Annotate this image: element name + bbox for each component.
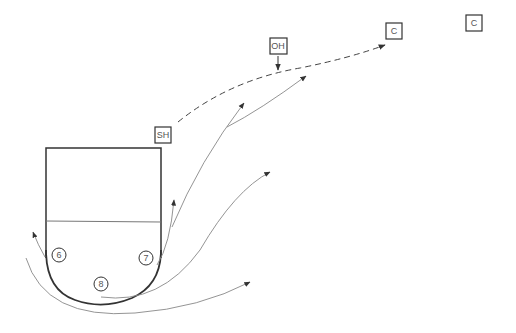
pass-path <box>178 45 385 122</box>
marker-c1: C <box>386 23 402 39</box>
path-7-cut <box>157 200 174 265</box>
marker-c2: C <box>466 15 482 31</box>
marker-sh: SH <box>155 127 171 143</box>
svg-text:7: 7 <box>143 253 148 263</box>
path-big-sweep <box>26 258 250 314</box>
path-wing-cut <box>172 103 244 227</box>
player-6: 6 <box>52 248 66 262</box>
svg-text:C: C <box>471 18 478 28</box>
player-8: 8 <box>94 277 108 291</box>
player-7: 7 <box>139 251 153 265</box>
svg-text:8: 8 <box>98 279 103 289</box>
marker-oh: OH <box>270 38 287 54</box>
svg-text:6: 6 <box>56 250 61 260</box>
movement-paths <box>26 76 306 314</box>
play-diagram: 6 7 8 SH OH C C <box>0 0 516 333</box>
path-curl <box>227 76 306 127</box>
svg-text:OH: OH <box>271 41 285 51</box>
svg-text:C: C <box>391 26 398 36</box>
path-8-cut <box>101 172 270 298</box>
path-6-cut <box>33 232 45 257</box>
svg-text:SH: SH <box>157 130 170 140</box>
